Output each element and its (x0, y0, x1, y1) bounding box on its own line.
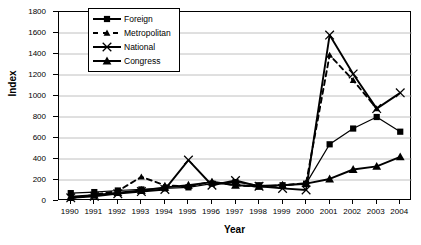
x-tick-label: 2002 (343, 207, 361, 216)
legend-item-metropolitan: Metropolitan (92, 26, 175, 40)
legend-item-foreign: Foreign (92, 12, 175, 26)
legend-label: Metropolitan (122, 28, 171, 38)
data-point-marker (372, 162, 381, 170)
data-point-marker (325, 31, 334, 40)
x-tick-label: 1998 (249, 207, 267, 216)
x-tick-label: 2004 (390, 207, 408, 216)
legend-item-congress: Congress (92, 54, 175, 68)
x-tick-mark (352, 200, 353, 204)
legend-swatch-filled-square (92, 13, 122, 25)
x-tick-label: 1997 (226, 207, 244, 216)
x-tick-mark (399, 200, 400, 204)
x-tick-label: 1992 (108, 207, 126, 216)
data-point-marker (184, 156, 193, 165)
x-tick-label: 1993 (131, 207, 149, 216)
x-tick-label: 1991 (84, 207, 102, 216)
legend-label: Foreign (122, 14, 153, 24)
x-tick-label: 2000 (296, 207, 314, 216)
x-tick-mark (117, 200, 118, 204)
data-point-marker (350, 77, 357, 83)
x-tick-label: 1999 (273, 207, 291, 216)
x-tick-mark (70, 200, 71, 204)
data-point-marker (327, 141, 333, 147)
data-point-marker (104, 16, 110, 22)
x-tick-label: 1994 (155, 207, 173, 216)
x-tick-label: 2003 (367, 207, 385, 216)
data-point-marker (396, 153, 405, 161)
y-tick-label: 1600 (28, 28, 46, 37)
x-tick-mark (93, 200, 94, 204)
chart-legend: ForeignMetropolitanNationalCongress (88, 8, 180, 72)
y-tick-label: 600 (33, 133, 46, 142)
y-tick-label: 800 (33, 112, 46, 121)
x-tick-mark (211, 200, 212, 204)
x-tick-mark (187, 200, 188, 204)
y-tick-label: 200 (33, 175, 46, 184)
legend-label: Congress (122, 56, 160, 66)
y-tick-label: 400 (33, 154, 46, 163)
y-tick-label: 0 (42, 196, 46, 205)
data-point-marker (350, 125, 356, 131)
data-point-marker (138, 173, 145, 179)
data-point-marker (326, 52, 333, 58)
legend-item-national: National (92, 40, 175, 54)
y-tick-label: 1400 (28, 49, 46, 58)
x-tick-mark (305, 200, 306, 204)
legend-label: National (122, 42, 155, 52)
data-point-marker (397, 129, 403, 135)
y-axis: 020040060080010001200140016001800 (0, 0, 58, 200)
x-tick-label: 1995 (179, 207, 197, 216)
x-tick-mark (329, 200, 330, 204)
data-point-marker (374, 114, 380, 120)
x-tick-label: 2001 (320, 207, 338, 216)
chart-container: Index 020040060080010001200140016001800 … (0, 0, 421, 245)
x-tick-mark (164, 200, 165, 204)
data-point-marker (396, 89, 405, 98)
x-tick-mark (376, 200, 377, 204)
x-tick-mark (282, 200, 283, 204)
x-tick-mark (140, 200, 141, 204)
x-axis-title: Year (58, 224, 411, 235)
x-tick-mark (235, 200, 236, 204)
y-tick-label: 1000 (28, 91, 46, 100)
x-tick-label: 1996 (202, 207, 220, 216)
x-tick-mark (258, 200, 259, 204)
data-point-marker (349, 165, 358, 173)
legend-swatch-filled-triangle (92, 55, 122, 67)
y-tick-label: 1800 (28, 7, 46, 16)
x-tick-label: 1990 (61, 207, 79, 216)
data-point-marker (325, 175, 334, 183)
y-tick-label: 1200 (28, 70, 46, 79)
legend-swatch-small-triangle (92, 27, 122, 39)
legend-swatch-x-cross (92, 41, 122, 53)
x-axis: 1990199119921993199419951996199719981999… (58, 200, 411, 222)
